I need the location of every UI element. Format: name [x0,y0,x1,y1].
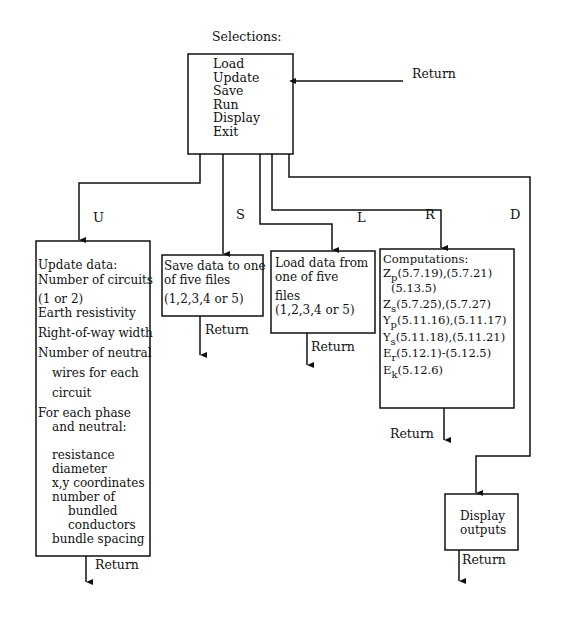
computations-return-label: Return [390,427,434,441]
menu-item-display[interactable]: Display [213,111,260,125]
menu-item-load[interactable]: Load [213,57,260,71]
computations-box-text: Computations: Zp(5.7.19),(5.7.21) (5.13.… [383,253,506,377]
computations-title: Computations: [383,253,506,267]
save-box-text: Save data to one of five files (1,2,3,4 … [164,259,266,306]
display-box-text: Display outputs [460,509,506,537]
update-return-label: Return [95,558,139,572]
branch-label-s: S [236,207,245,222]
computation-row: Ys(5.11.18),(5.11.21) [383,331,506,345]
computation-row: Zs(5.7.25),(5.7.27) [383,298,506,312]
branch-label-r: R [425,207,435,222]
save-return-label: Return [205,323,249,337]
update-box-text: Update data: Number of circuits (1 or 2)… [38,258,153,546]
computation-row: Ek(5.12.6) [383,364,506,378]
computation-row: (5.13.5) [383,282,506,296]
computation-row: Yp(5.11.16),(5.11.17) [383,314,506,328]
display-return-label: Return [462,553,506,567]
branch-label-u: U [93,210,104,225]
menu-item-save[interactable]: Save [213,84,260,98]
computation-row: Zp(5.7.19),(5.7.21) [383,267,506,281]
menu-list: Load Update Save Run Display Exit [213,57,260,138]
branch-label-l: L [357,210,366,225]
menu-return-label: Return [412,67,456,81]
menu-item-exit[interactable]: Exit [213,125,260,139]
computation-row: Er(5.12.1)-(5.12.5) [383,347,506,361]
selections-title: Selections: [212,30,282,44]
branch-label-d: D [510,207,520,222]
load-box-text: Load data from one of five files (1,2,3,… [275,256,368,317]
load-return-label: Return [311,340,355,354]
menu-item-update[interactable]: Update [213,71,260,85]
menu-item-run[interactable]: Run [213,98,260,112]
